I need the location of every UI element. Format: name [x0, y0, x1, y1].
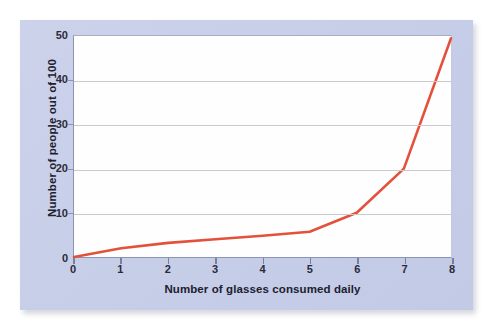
y-tick-label: 50: [34, 30, 68, 41]
x-tick-label: 8: [440, 263, 464, 275]
gridline: [74, 81, 451, 82]
gridline: [74, 214, 451, 215]
y-axis-tick-labels: 01020304050: [28, 35, 68, 258]
y-tick-label: 40: [34, 74, 68, 85]
x-tick-label: 2: [156, 263, 180, 275]
series-line-overlay: [74, 36, 451, 257]
series-polyline: [74, 38, 451, 257]
gridline: [74, 170, 451, 171]
y-tick-label: 10: [34, 208, 68, 219]
x-tick-mark: [168, 258, 170, 264]
x-tick-label: 5: [298, 263, 322, 275]
gridline: [74, 125, 451, 126]
x-tick-mark: [120, 258, 122, 264]
x-tick-mark: [357, 258, 359, 264]
x-axis-tick-labels: 012345678: [73, 263, 452, 279]
line-chart: Number of people out of 100 01020304050 …: [20, 20, 473, 310]
x-axis-title: Number of glasses consumed daily: [73, 283, 452, 295]
y-tick-label: 30: [34, 119, 68, 130]
x-tick-mark: [310, 258, 312, 264]
plot-area: [73, 35, 452, 258]
x-tick-mark: [452, 258, 454, 264]
y-tick-mark: [68, 213, 73, 214]
x-tick-label: 3: [203, 263, 227, 275]
x-tick-mark: [215, 258, 217, 264]
x-tick-label: 0: [61, 263, 85, 275]
x-tick-mark: [263, 258, 265, 264]
y-tick-label: 20: [34, 163, 68, 174]
x-tick-label: 7: [393, 263, 417, 275]
x-tick-label: 1: [108, 263, 132, 275]
y-tick-label: 0: [34, 253, 68, 264]
y-tick-mark: [68, 124, 73, 125]
y-tick-mark: [68, 169, 73, 170]
x-tick-mark: [405, 258, 407, 264]
x-tick-label: 4: [251, 263, 275, 275]
chart-panel: Number of people out of 100 01020304050 …: [20, 20, 473, 310]
y-tick-mark: [68, 80, 73, 81]
x-tick-mark: [73, 258, 75, 264]
x-tick-label: 6: [345, 263, 369, 275]
